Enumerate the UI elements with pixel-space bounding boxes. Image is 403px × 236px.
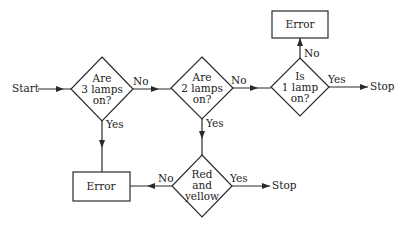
edge-label-d2-yes: Yes bbox=[205, 117, 224, 129]
edge-label-d3-yes: Yes bbox=[327, 73, 346, 85]
decision-1-lamp: Is 1 lamp on? bbox=[271, 58, 329, 116]
stop-terminal-1: Stop bbox=[370, 80, 395, 92]
edge-label-d3-no: No bbox=[304, 47, 320, 59]
error-box-bottom: Error bbox=[73, 172, 130, 201]
error-box-top: Error bbox=[272, 11, 328, 38]
edge-label-d4-no: No bbox=[158, 172, 174, 184]
flowchart: Start Are 3 lamps on? No Are 2 lamps on?… bbox=[0, 0, 403, 236]
edge-label-d2-no: No bbox=[231, 74, 247, 86]
decision-3-lamps: Are 3 lamps on? bbox=[71, 57, 133, 121]
arrow-icon bbox=[199, 131, 205, 139]
svg-text:yellow: yellow bbox=[184, 190, 219, 202]
svg-text:on?: on? bbox=[193, 93, 212, 105]
svg-text:on?: on? bbox=[291, 92, 310, 104]
arrow-icon bbox=[262, 183, 270, 189]
edge-label-d1-no: No bbox=[133, 75, 149, 87]
svg-text:on?: on? bbox=[93, 94, 112, 106]
arrow-icon bbox=[360, 84, 368, 90]
svg-text:Error: Error bbox=[285, 18, 315, 30]
arrow-icon bbox=[297, 38, 303, 46]
arrow-icon bbox=[147, 183, 155, 189]
edge-label-d1-yes: Yes bbox=[105, 118, 124, 130]
start-label: Start bbox=[12, 82, 40, 94]
decision-2-lamps: Are 2 lamps on? bbox=[171, 57, 233, 119]
arrow-icon bbox=[56, 86, 64, 92]
arrow-icon bbox=[99, 140, 105, 148]
stop-terminal-2: Stop bbox=[272, 179, 297, 191]
arrow-icon bbox=[151, 86, 159, 92]
edge-label-d4-yes: Yes bbox=[229, 172, 248, 184]
svg-text:Error: Error bbox=[86, 180, 116, 192]
arrow-icon bbox=[250, 85, 258, 91]
decision-red-and-yellow: Red and yellow bbox=[172, 155, 232, 217]
